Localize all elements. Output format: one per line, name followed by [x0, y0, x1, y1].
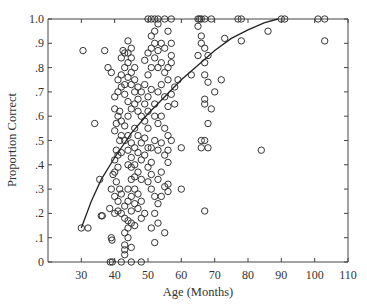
data-point — [202, 45, 208, 51]
data-point — [165, 159, 171, 165]
data-point — [122, 91, 128, 97]
data-point — [125, 198, 131, 204]
data-points — [78, 16, 328, 265]
data-point — [172, 101, 178, 107]
data-point — [145, 94, 151, 100]
data-point — [148, 171, 154, 177]
y-tick-label: .3 — [35, 182, 44, 196]
data-point — [152, 113, 158, 119]
data-point — [107, 205, 113, 211]
data-point — [125, 147, 131, 153]
data-point — [148, 225, 154, 231]
data-point — [135, 191, 141, 197]
y-axis-title: Proportion Correct — [5, 92, 19, 187]
data-point — [115, 164, 121, 170]
data-point — [122, 252, 128, 258]
x-tick-label: 70 — [209, 268, 221, 282]
data-point — [198, 33, 204, 39]
data-point — [152, 55, 158, 61]
data-point — [112, 128, 118, 134]
data-point — [128, 55, 134, 61]
data-point — [142, 135, 148, 141]
x-tick-label: 90 — [275, 268, 287, 282]
data-point — [148, 64, 154, 70]
data-point — [202, 72, 208, 78]
data-point — [195, 23, 201, 29]
fit-curve — [81, 19, 278, 228]
y-tick-label: .9 — [35, 36, 44, 50]
data-point — [202, 208, 208, 214]
data-point — [125, 113, 131, 119]
data-point — [128, 244, 134, 250]
data-point — [125, 235, 131, 241]
x-tick-label: 50 — [142, 268, 154, 282]
data-point — [152, 137, 158, 143]
x-ticks: 30405060708090100110 — [75, 19, 356, 282]
data-point — [145, 72, 151, 78]
x-tick-label: 100 — [306, 268, 324, 282]
data-point — [218, 77, 224, 83]
data-point — [165, 64, 171, 70]
data-point — [155, 120, 161, 126]
data-point — [115, 198, 121, 204]
data-point — [322, 38, 328, 44]
data-point — [142, 57, 148, 63]
data-point — [113, 179, 119, 185]
data-point — [168, 137, 174, 143]
data-point — [238, 38, 244, 44]
data-point — [155, 176, 161, 182]
data-point — [265, 28, 271, 34]
data-point — [155, 147, 161, 153]
data-point — [132, 101, 138, 107]
data-point — [132, 77, 138, 83]
data-point — [135, 149, 141, 155]
data-point — [205, 120, 211, 126]
data-point — [158, 81, 164, 87]
data-point — [212, 89, 218, 95]
scatter-chart: 30405060708090100110 0.1.2.3.4.5.6.7.8.9… — [0, 0, 367, 308]
data-point — [178, 186, 184, 192]
x-tick-label: 60 — [175, 268, 187, 282]
data-point — [118, 72, 124, 78]
data-point — [142, 81, 148, 87]
data-point — [102, 47, 108, 53]
data-point — [80, 47, 86, 53]
data-point — [155, 201, 161, 207]
data-point — [92, 120, 98, 126]
data-point — [205, 145, 211, 151]
data-point — [162, 230, 168, 236]
data-point — [148, 86, 154, 92]
data-point — [195, 52, 201, 58]
data-point — [148, 159, 154, 165]
data-point — [202, 101, 208, 107]
y-tick-label: .6 — [35, 109, 44, 123]
y-tick-label: .4 — [35, 158, 44, 172]
data-point — [222, 35, 228, 41]
y-tick-label: .8 — [35, 61, 44, 75]
data-point — [142, 152, 148, 158]
data-point — [125, 38, 131, 44]
data-point — [165, 188, 171, 194]
data-point — [158, 113, 164, 119]
y-tick-label: .2 — [35, 206, 44, 220]
x-tick-label: 110 — [339, 268, 357, 282]
data-point — [158, 169, 164, 175]
data-point — [198, 145, 204, 151]
y-tick-label: .5 — [35, 134, 44, 148]
data-point — [155, 89, 161, 95]
data-point — [125, 98, 131, 104]
data-point — [178, 145, 184, 151]
data-point — [145, 179, 151, 185]
data-point — [148, 186, 154, 192]
data-point — [132, 201, 138, 207]
y-tick-label: .1 — [35, 231, 44, 245]
data-point — [152, 193, 158, 199]
data-point — [168, 52, 174, 58]
data-point — [165, 147, 171, 153]
data-point — [125, 186, 131, 192]
data-point — [165, 28, 171, 34]
data-point — [152, 40, 158, 46]
data-point — [138, 176, 144, 182]
data-point — [175, 77, 181, 83]
data-point — [108, 186, 114, 192]
